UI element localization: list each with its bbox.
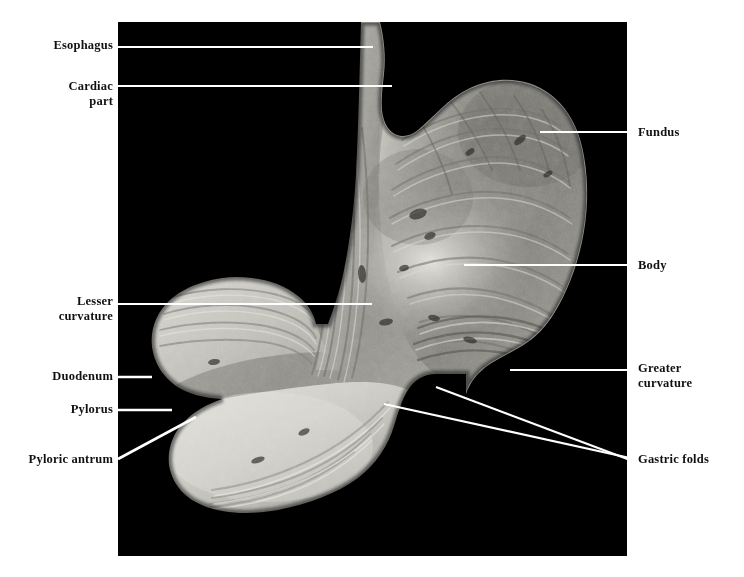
label-pylorus: Pylorus — [0, 402, 113, 417]
label-greater-curvature: Greater curvature — [638, 361, 744, 390]
label-esophagus: Esophagus — [0, 38, 113, 53]
label-cardiac-part: Cardiac part — [0, 79, 113, 108]
label-lesser-curvature: Lesser curvature — [0, 294, 113, 323]
label-pyloric-antrum: Pyloric antrum — [0, 452, 113, 467]
anatomical-figure: Esophagus Cardiac part Lesser curvature … — [0, 0, 744, 577]
specimen-photograph-image — [118, 22, 627, 556]
label-fundus: Fundus — [638, 125, 744, 140]
label-gastric-folds: Gastric folds — [638, 452, 744, 467]
label-duodenum: Duodenum — [0, 369, 113, 384]
specimen-photograph — [118, 22, 627, 556]
label-body: Body — [638, 258, 744, 273]
